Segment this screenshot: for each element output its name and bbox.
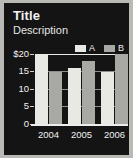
legend-item-b[interactable]: B bbox=[104, 44, 124, 53]
legend-label-b: B bbox=[118, 44, 124, 53]
y-tick-label-10: 10 bbox=[18, 84, 29, 94]
chart-legend: A B bbox=[75, 44, 124, 53]
y-tick-mark-20 bbox=[30, 54, 34, 55]
chart-title: Title bbox=[13, 8, 125, 23]
bar-2005-b[interactable] bbox=[82, 61, 95, 124]
y-tick-mark-15 bbox=[30, 71, 34, 72]
legend-swatch-a bbox=[75, 45, 86, 52]
bar-series-container bbox=[35, 54, 128, 124]
bar-group-2005 bbox=[68, 54, 95, 124]
bar-2004-b[interactable] bbox=[49, 72, 62, 124]
chart-widget: Title Description A B $20 15 10 5 0 bbox=[4, 3, 129, 155]
bar-2005-a[interactable] bbox=[68, 68, 81, 124]
plot-area bbox=[35, 54, 128, 124]
chart-description: Description bbox=[13, 24, 125, 37]
y-tick-label-0: 0 bbox=[24, 119, 29, 129]
y-tick-label-5: 5 bbox=[24, 101, 29, 111]
y-tick-label-15: 15 bbox=[18, 66, 29, 76]
legend-item-a[interactable]: A bbox=[75, 44, 95, 53]
x-axis: 2004 2005 2006 bbox=[35, 129, 128, 140]
bar-group-2004 bbox=[35, 54, 62, 124]
x-tick-label-2006: 2006 bbox=[101, 129, 128, 140]
bar-2006-b[interactable] bbox=[115, 54, 128, 124]
y-tick-label-20: $20 bbox=[13, 49, 29, 59]
y-tick-mark-10 bbox=[30, 89, 34, 90]
x-tick-label-2005: 2005 bbox=[68, 129, 95, 140]
legend-swatch-b bbox=[104, 45, 115, 52]
legend-label-a: A bbox=[89, 44, 95, 53]
x-tick-label-2004: 2004 bbox=[35, 129, 62, 140]
x-axis-baseline bbox=[31, 124, 128, 126]
bar-2006-a[interactable] bbox=[101, 72, 114, 124]
y-tick-mark-5 bbox=[30, 106, 34, 107]
bar-group-2006 bbox=[101, 54, 128, 124]
chart-header: Title Description bbox=[13, 8, 125, 37]
bar-2004-a[interactable] bbox=[35, 54, 48, 124]
